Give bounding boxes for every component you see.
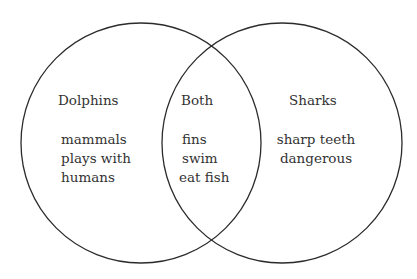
both-items: fins swim eat fish xyxy=(179,130,229,187)
both-item: swim xyxy=(179,149,229,168)
sharks-title: Sharks xyxy=(289,92,337,108)
dolphins-item: humans xyxy=(61,168,131,187)
sharks-items: sharp teeth dangerous xyxy=(275,130,357,168)
sharks-item: dangerous xyxy=(275,149,357,168)
dolphins-item: plays with xyxy=(61,149,131,168)
both-title: Both xyxy=(181,92,213,108)
dolphins-items: mammals plays with humans xyxy=(61,130,131,187)
dolphins-title: Dolphins xyxy=(58,92,119,108)
dolphins-item: mammals xyxy=(61,130,131,149)
sharks-item: sharp teeth xyxy=(275,130,357,149)
both-item: eat fish xyxy=(179,168,229,187)
both-item: fins xyxy=(179,130,229,149)
